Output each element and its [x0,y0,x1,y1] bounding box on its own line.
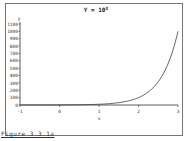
x-tick-label: 3 [177,109,180,114]
y-tick-label: 1100 [7,22,18,27]
y-tick-label: 500 [10,66,18,71]
chart: Y = 10X 01002003004005006007008009001000… [0,0,186,141]
y-ticks: 010020030040050060070080090010001100 [7,22,20,108]
chart-title: Y = 10X [84,6,109,14]
x-tick-label: 1 [98,109,101,114]
series-line [20,31,178,105]
y-axis-label: y [18,16,21,21]
y-tick-label: 900 [10,36,18,41]
x-ticks: -10123 [17,105,179,114]
x-tick-label: -1 [17,109,23,114]
x-tick-label: 2 [137,109,140,114]
y-tick-label: 600 [10,58,18,63]
y-tick-label: 200 [10,88,18,93]
y-tick-label: 300 [10,81,18,86]
y-tick-label: 100 [10,95,18,100]
y-tick-label: 400 [10,73,18,78]
y-tick-label: 0 [15,103,18,108]
y-tick-label: 700 [10,51,18,56]
figure-caption: Figure 3.3.1a [1,130,54,137]
x-tick-label: 0 [58,109,61,114]
y-tick-label: 1000 [7,29,18,34]
y-tick-label: 800 [10,44,18,49]
x-axis-label: x [98,116,101,121]
axes [20,22,178,105]
